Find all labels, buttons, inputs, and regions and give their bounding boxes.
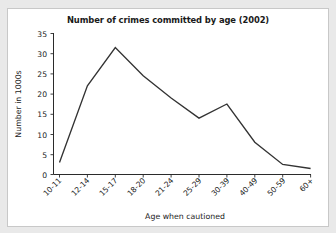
y-axis-tick-labels: 35 30 25 20 15 10 5 0 [37,30,47,180]
x-tick-label: 60+ [298,176,316,194]
x-tick-label: 15-17 [97,176,119,198]
x-tick-label: 50-59 [265,176,287,198]
y-tick-label: 30 [37,50,47,59]
y-tick-label: 10 [37,131,47,140]
x-tick-label: 25-29 [181,176,203,198]
data-series-line [60,48,311,169]
x-tick-label: 21-24 [153,176,175,198]
x-tick-label: 12-14 [69,176,91,198]
x-tick-label: 30-39 [209,176,231,198]
y-tick-label: 25 [37,70,47,79]
y-axis-title: Number in 1000s [14,70,23,137]
y-tick-label: 35 [37,30,47,39]
x-axis-title: Age when cautioned [145,212,225,221]
y-tick-label: 20 [37,90,47,99]
chart-plot-area: 35 30 25 20 15 10 5 0 Number in 1000s 10 [8,9,328,226]
chart-figure: Number of crimes committed by age (2002)… [7,8,329,227]
y-tick-label: 5 [42,151,47,160]
x-axis-tick-labels: 10-11 12-14 15-17 18-20 21-24 25-29 30-3… [41,176,315,198]
x-tick-label: 18-20 [125,176,147,198]
x-tick-label: 40-49 [237,176,259,198]
y-tick-label: 15 [37,110,47,119]
y-tick-label: 0 [42,171,47,180]
